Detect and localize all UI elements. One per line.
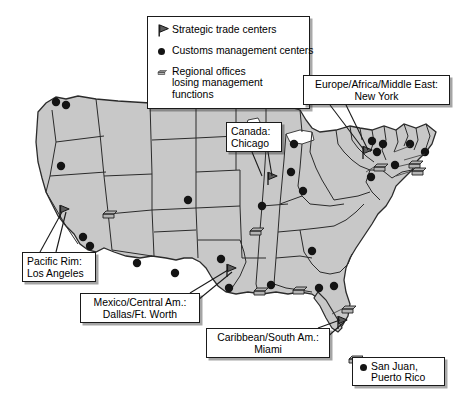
callout-caribbean-south-america-line1: Caribbean/South Am.: bbox=[217, 332, 319, 343]
flag-icon bbox=[156, 24, 172, 37]
callout-mexico-central-america-line1: Mexico/Central Am.: bbox=[94, 297, 187, 308]
callout-mexico-central-america-line2: Dallas/Ft. Worth bbox=[86, 309, 194, 321]
legend-label-regional-offices-line3: functions bbox=[172, 89, 214, 100]
callout-mexico-central-america: Mexico/Central Am.: Dallas/Ft. Worth bbox=[80, 293, 200, 323]
legend-label-strategic-trade-centers: Strategic trade centers bbox=[172, 24, 277, 35]
legend-item-customs-management-centers: Customs management centers bbox=[156, 45, 303, 58]
callout-pacific-rim-line1: Pacific Rim: bbox=[27, 256, 82, 267]
inset-san-juan-line1: San Juan, bbox=[371, 361, 418, 372]
filled-circle-icon bbox=[156, 45, 172, 58]
map-figure: Strategic trade centers Customs manageme… bbox=[0, 0, 472, 405]
callout-europe-africa-middle-east-line1: Europe/Africa/Middle East: bbox=[315, 79, 438, 90]
callout-canada-line2: Chicago bbox=[231, 138, 276, 150]
inset-san-juan-label: San Juan, Puerto Rico bbox=[371, 361, 425, 384]
figure-caption bbox=[3, 395, 203, 405]
callout-caribbean-south-america: Caribbean/South Am.: Miami bbox=[206, 328, 330, 358]
callout-europe-africa-middle-east-line2: New York bbox=[309, 91, 444, 103]
legend-label-customs-management-centers: Customs management centers bbox=[172, 45, 314, 56]
callout-europe-africa-middle-east: Europe/Africa/Middle East: New York bbox=[303, 75, 450, 105]
rectangle-icon bbox=[156, 66, 172, 79]
callout-pacific-rim-line2: Los Angeles bbox=[27, 268, 90, 280]
filled-circle-icon bbox=[359, 361, 371, 373]
callout-caribbean-south-america-line2: Miami bbox=[212, 344, 324, 356]
callout-pacific-rim: Pacific Rim: Los Angeles bbox=[22, 252, 96, 282]
legend-item-regional-offices: Regional offices losing management funct… bbox=[156, 66, 303, 100]
callout-canada: Canada: Chicago bbox=[226, 122, 282, 152]
legend-item-strategic-trade-centers: Strategic trade centers bbox=[156, 24, 303, 37]
callout-canada-line1: Canada: bbox=[231, 126, 270, 137]
legend-label-regional-offices: Regional offices losing management funct… bbox=[172, 66, 263, 100]
map-legend: Strategic trade centers Customs manageme… bbox=[147, 16, 310, 109]
legend-label-regional-offices-line1: Regional offices bbox=[172, 66, 246, 77]
inset-san-juan-puerto-rico: San Juan, Puerto Rico bbox=[352, 357, 445, 386]
legend-label-regional-offices-line2: losing management bbox=[172, 77, 263, 88]
inset-san-juan-line2: Puerto Rico bbox=[371, 372, 425, 383]
